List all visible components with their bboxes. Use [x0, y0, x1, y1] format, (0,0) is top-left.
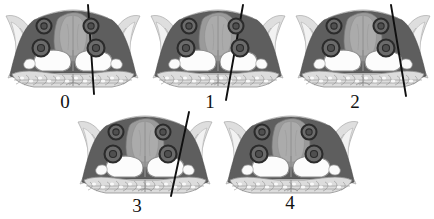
marker-lower-right-1 — [232, 40, 249, 57]
marker-lower-left-1 — [178, 40, 195, 57]
marker-upper-left-4 — [255, 125, 270, 140]
panel-label-3: 3 — [125, 196, 149, 215]
marker-lower-left-3 — [105, 146, 122, 163]
marker-upper-right-4 — [302, 125, 317, 140]
panel-label-0: 0 — [53, 92, 77, 111]
panel-label-4: 4 — [278, 193, 302, 212]
cross-section-image-3 — [76, 110, 214, 196]
marker-upper-right-1 — [229, 19, 244, 34]
cross-section-image-2 — [294, 4, 432, 90]
cross-section-image-0 — [4, 4, 142, 90]
figure-root: 01234 — [0, 0, 434, 219]
marker-upper-right-2 — [374, 19, 389, 34]
marker-lower-right-3 — [160, 146, 177, 163]
marker-upper-right-3 — [156, 125, 171, 140]
cross-section-image-1 — [149, 4, 287, 90]
panel-label-1: 1 — [198, 92, 222, 111]
marker-upper-left-3 — [109, 125, 124, 140]
marker-upper-left-1 — [182, 19, 197, 34]
marker-lower-right-0 — [88, 40, 105, 57]
marker-lower-left-4 — [251, 146, 268, 163]
marker-lower-left-0 — [33, 40, 50, 57]
marker-upper-left-0 — [37, 19, 52, 34]
marker-lower-right-4 — [306, 146, 323, 163]
panel-label-2: 2 — [343, 92, 367, 111]
cross-section-image-4 — [222, 110, 360, 196]
marker-upper-left-2 — [327, 19, 342, 34]
marker-lower-right-2 — [378, 40, 395, 57]
marker-upper-right-0 — [84, 19, 99, 34]
marker-lower-left-2 — [323, 40, 340, 57]
